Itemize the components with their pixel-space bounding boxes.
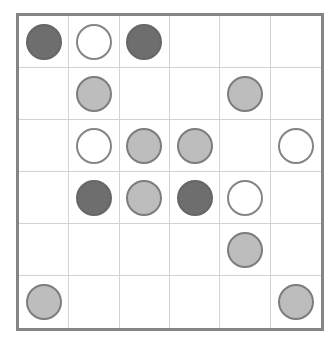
- light-stone-icon: [26, 284, 62, 320]
- board-cell-r5-c0[interactable]: [19, 276, 69, 328]
- light-stone-icon: [227, 232, 263, 268]
- board-cell-r3-c3[interactable]: [170, 172, 220, 224]
- light-stone-icon: [227, 76, 263, 112]
- board-cell-r2-c3[interactable]: [170, 120, 220, 172]
- light-stone-icon: [177, 128, 213, 164]
- board-cell-r0-c0[interactable]: [19, 16, 69, 68]
- board-cell-r0-c4[interactable]: [220, 16, 270, 68]
- board-cell-r4-c2[interactable]: [120, 224, 170, 276]
- board-cell-r4-c3[interactable]: [170, 224, 220, 276]
- white-stone-icon: [76, 128, 112, 164]
- board-cell-r5-c2[interactable]: [120, 276, 170, 328]
- game-board: [16, 13, 324, 331]
- board-cell-r0-c1[interactable]: [69, 16, 119, 68]
- dark-stone-icon: [126, 24, 162, 60]
- light-stone-icon: [278, 284, 314, 320]
- board-cell-r2-c4[interactable]: [220, 120, 270, 172]
- white-stone-icon: [227, 180, 263, 216]
- board-cell-r1-c1[interactable]: [69, 68, 119, 120]
- white-stone-icon: [278, 128, 314, 164]
- board-cell-r5-c5[interactable]: [271, 276, 321, 328]
- board-cell-r2-c2[interactable]: [120, 120, 170, 172]
- light-stone-icon: [126, 128, 162, 164]
- board-cell-r1-c3[interactable]: [170, 68, 220, 120]
- board-cell-r1-c0[interactable]: [19, 68, 69, 120]
- board-cell-r0-c3[interactable]: [170, 16, 220, 68]
- light-stone-icon: [76, 76, 112, 112]
- board-cell-r5-c4[interactable]: [220, 276, 270, 328]
- board-cell-r4-c0[interactable]: [19, 224, 69, 276]
- dark-stone-icon: [177, 180, 213, 216]
- board-cell-r4-c5[interactable]: [271, 224, 321, 276]
- board-cell-r1-c4[interactable]: [220, 68, 270, 120]
- board-cell-r5-c1[interactable]: [69, 276, 119, 328]
- board-cell-r4-c1[interactable]: [69, 224, 119, 276]
- board-cell-r3-c4[interactable]: [220, 172, 270, 224]
- board-cell-r3-c2[interactable]: [120, 172, 170, 224]
- board-cell-r0-c5[interactable]: [271, 16, 321, 68]
- board-cell-r3-c5[interactable]: [271, 172, 321, 224]
- board-cell-r4-c4[interactable]: [220, 224, 270, 276]
- board-cell-r3-c0[interactable]: [19, 172, 69, 224]
- white-stone-icon: [76, 24, 112, 60]
- board-cell-r3-c1[interactable]: [69, 172, 119, 224]
- light-stone-icon: [126, 180, 162, 216]
- board-cell-r1-c5[interactable]: [271, 68, 321, 120]
- board-cell-r2-c1[interactable]: [69, 120, 119, 172]
- board-cell-r5-c3[interactable]: [170, 276, 220, 328]
- board-cell-r0-c2[interactable]: [120, 16, 170, 68]
- board-cell-r1-c2[interactable]: [120, 68, 170, 120]
- dark-stone-icon: [76, 180, 112, 216]
- board-cell-r2-c0[interactable]: [19, 120, 69, 172]
- board-cell-r2-c5[interactable]: [271, 120, 321, 172]
- dark-stone-icon: [26, 24, 62, 60]
